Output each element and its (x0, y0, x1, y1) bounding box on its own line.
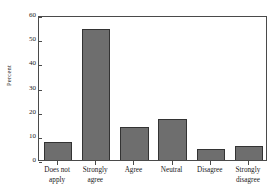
x-axis-tick-label-line: apply (38, 176, 76, 186)
bar (82, 29, 110, 160)
y-axis-tick-labels: 0102030405060 (14, 11, 36, 161)
y-axis-tick-label: 50 (14, 35, 36, 44)
x-axis-tick-label: Stronglydisagree (229, 166, 267, 185)
y-axis-title-text: Percent (5, 65, 12, 86)
x-axis-tick-label: Stronglyagree (76, 166, 114, 185)
x-axis-tick-label: Does notapply (38, 166, 76, 185)
y-axis-tick-label: 40 (14, 59, 36, 68)
bar (235, 146, 263, 161)
bar-chart: Percent 0102030405060 Does notapplyStron… (0, 0, 279, 196)
bars-layer (39, 17, 266, 160)
bar (44, 142, 72, 160)
y-axis-tick-mark (39, 90, 42, 91)
x-axis-tick-label: Agree (114, 166, 152, 176)
y-axis-tick-label: 0 (14, 156, 36, 165)
y-axis-tick-label: 60 (14, 11, 36, 20)
x-axis-tick-label-line: disagree (229, 176, 267, 186)
bar (197, 149, 225, 160)
x-axis-tick-label-line: Disagree (191, 166, 229, 176)
bar (120, 127, 148, 160)
plot-area (38, 16, 267, 161)
y-axis-tick-label: 10 (14, 132, 36, 141)
x-axis-tick-label-line: agree (76, 176, 114, 186)
x-axis-tick-label: Disagree (191, 166, 229, 176)
x-axis-tick-label-line: Does not (38, 166, 76, 176)
y-axis-tick-mark (39, 41, 42, 42)
y-axis-tick-mark (39, 17, 42, 18)
y-axis-tick-mark (39, 114, 42, 115)
x-axis-tick-label-line: Agree (114, 166, 152, 176)
x-axis-tick-mark (57, 161, 58, 165)
x-axis-tick-labels: Does notapplyStronglyagreeAgreeNeutralDi… (38, 166, 267, 194)
x-axis-tick-mark (172, 161, 173, 165)
y-axis-tick-label: 30 (14, 84, 36, 93)
x-axis-tick-mark (133, 161, 134, 165)
x-axis-tick-label-line: Strongly (229, 166, 267, 176)
y-axis-tick-mark (39, 65, 42, 66)
x-axis-tick-mark (95, 161, 96, 165)
x-axis-tick-mark (210, 161, 211, 165)
x-axis-tick-label: Neutral (153, 166, 191, 176)
x-axis-tick-label-line: Strongly (76, 166, 114, 176)
x-axis-tick-label-line: Neutral (153, 166, 191, 176)
y-axis-tick-mark (39, 138, 42, 139)
y-axis-tick-label: 20 (14, 108, 36, 117)
x-axis-tick-mark (248, 161, 249, 165)
bar (158, 119, 186, 160)
